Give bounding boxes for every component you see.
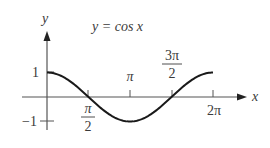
chart-title: y = cos x (90, 19, 144, 34)
x-tick-label-pi-half-num: π (84, 101, 92, 116)
y-tick-label-1: 1 (32, 65, 39, 80)
x-tick-label-3pi-half-num: 3π (165, 48, 179, 63)
y-axis-label: y (40, 11, 49, 26)
x-tick-label-pi: π (126, 69, 134, 84)
x-axis-label: x (251, 89, 259, 104)
y-axis-arrow-icon (44, 31, 51, 41)
x-axis-arrow-icon (237, 94, 247, 101)
cosine-chart: y x y = cos x 1 −1 π 2 π 3π 2 2π (0, 0, 270, 148)
x-tick-label-3pi-half-den: 2 (169, 66, 176, 81)
x-tick-label-2pi: 2π (207, 103, 221, 118)
x-tick-label-pi-half-den: 2 (85, 119, 92, 134)
y-tick-label-neg1: −1 (22, 114, 37, 129)
